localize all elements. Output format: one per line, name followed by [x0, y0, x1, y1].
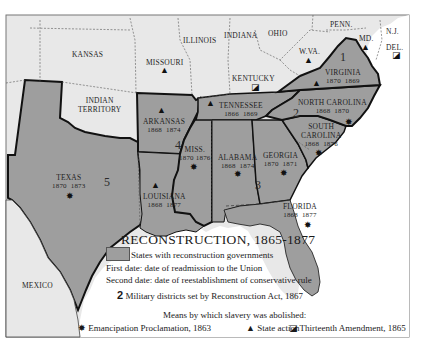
- label-indian-territory: INDIANTERRITORY: [78, 96, 121, 114]
- legend-district-number: 2: [117, 289, 123, 301]
- state-action-triangle-icon: ▲: [312, 79, 321, 88]
- label-illinois: ILLINOIS: [183, 36, 216, 45]
- emancipation-star-icon: ✸: [304, 221, 312, 230]
- legend-district: 2 Military districts set by Reconstructi…: [117, 290, 303, 302]
- label-texas: TEXAS1870 1873: [52, 173, 86, 191]
- emancipation-star-icon: ✸: [234, 170, 242, 179]
- label-indiana: INDIANA: [224, 31, 257, 40]
- legend-swatch-label: States with reconstruction governments: [131, 250, 273, 261]
- label-louisiana: LOUISIANA1868 1877: [143, 192, 186, 210]
- legend-swatch-reconstruction: [106, 247, 130, 261]
- state-action-triangle-icon: ▲: [246, 323, 255, 333]
- label-nj: N.J.: [386, 27, 399, 36]
- label-arkansas: ARKANSAS1868 1874: [143, 117, 185, 135]
- legend-title: RECONSTRUCTION, 1865-1877: [121, 232, 315, 248]
- state-action-triangle-icon: ▲: [206, 99, 215, 108]
- emancipation-star-icon: ✸: [315, 149, 323, 158]
- label-kansas: KANSAS: [72, 50, 103, 59]
- label-mississippi: MISS.1870 1876: [179, 145, 211, 163]
- label-north-carolina: NORTH CAROLINA1868 1870: [298, 98, 367, 116]
- label-ohio: OHIO: [268, 29, 288, 38]
- label-south-carolina: SOUTHCAROLINA1868 1876: [301, 122, 341, 149]
- thirteenth-amendment-square-icon: ◪: [251, 83, 260, 92]
- emancipation-star-icon: ✸: [280, 169, 288, 178]
- label-penn: PENN.: [330, 20, 352, 29]
- emancipation-star-icon: ✸: [345, 118, 353, 127]
- state-action-triangle-icon: ▲: [361, 43, 370, 52]
- district-number-1: 1: [340, 50, 346, 65]
- thirteenth-amendment-square-icon: ◪: [392, 51, 401, 60]
- district-number-4: 4: [175, 138, 181, 153]
- legend-means-heading: Means by which slavery was abolished:: [163, 310, 306, 321]
- emancipation-star-icon: ✸: [78, 323, 86, 333]
- district-number-3: 3: [255, 178, 261, 193]
- legend-first-date: First date: date of readmission to the U…: [106, 263, 262, 274]
- district-number-5: 5: [104, 175, 110, 190]
- emancipation-star-icon: ✸: [190, 163, 198, 172]
- label-tennessee: TENNESSEE1866 1869: [219, 101, 263, 119]
- district-number-2: 2: [293, 106, 299, 121]
- thirteenth-amendment-square-icon: ◪: [289, 323, 298, 333]
- state-action-triangle-icon: ▲: [304, 56, 313, 65]
- legend-second-date: Second date: date of reestablishment of …: [106, 275, 312, 286]
- label-virginia: VIRGINIA1870 1869: [325, 68, 361, 86]
- legend-symbol-emancipation: ✸ Emancipation Proclamation, 1863: [78, 323, 211, 334]
- state-action-triangle-icon: ▲: [151, 181, 160, 190]
- legend-symbol-thirteenth-amendment: ◪ Thirteenth Amendment, 1865: [289, 323, 406, 334]
- state-action-triangle-icon: ▲: [160, 66, 169, 75]
- label-florida: FLORIDA1868 1877: [283, 202, 317, 220]
- emancipation-star-icon: ✸: [66, 192, 74, 201]
- label-georgia: GEORGIA1870 1871: [263, 151, 298, 169]
- state-action-triangle-icon: ▲: [157, 106, 166, 115]
- label-mexico: MEXICO: [22, 281, 53, 290]
